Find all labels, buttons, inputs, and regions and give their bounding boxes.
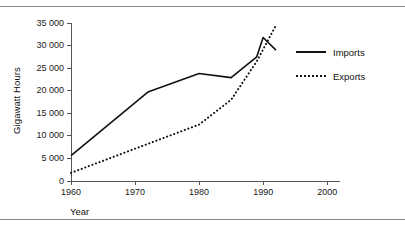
x-tick-label: 1990 <box>243 188 283 197</box>
y-tick-label: 35 000 <box>36 19 64 28</box>
legend-item-imports[interactable]: Imports <box>296 40 365 64</box>
x-tick-label: 1970 <box>115 188 155 197</box>
x-tick-label: 1960 <box>51 188 91 197</box>
chart-figure: Gigawatt Hours Year 05 00010 00015 00020… <box>0 0 405 230</box>
y-tick-label: 10 000 <box>36 131 64 140</box>
series-line-exports <box>71 25 276 173</box>
series-line-imports <box>71 37 276 155</box>
y-tick-label: 30 000 <box>36 41 64 50</box>
y-tick-label: 0 <box>59 177 64 186</box>
legend-label-imports: Imports <box>333 47 365 58</box>
chart-series-group <box>71 25 276 173</box>
legend-label-exports: Exports <box>333 71 365 82</box>
y-tick-label: 5 000 <box>41 154 64 163</box>
legend-item-exports[interactable]: Exports <box>296 64 365 88</box>
y-axis-title: Gigawatt Hours <box>11 61 22 141</box>
y-tick-label: 15 000 <box>36 109 64 118</box>
chart-legend: Imports Exports <box>296 40 365 88</box>
y-tick-label: 25 000 <box>36 64 64 73</box>
y-tick-label: 20 000 <box>36 86 64 95</box>
solid-line-swatch <box>296 47 326 57</box>
dotted-line-swatch <box>296 71 326 81</box>
x-tick-label: 2000 <box>307 188 347 197</box>
x-tick-label: 1980 <box>179 188 219 197</box>
x-axis-title: Year <box>70 206 89 217</box>
